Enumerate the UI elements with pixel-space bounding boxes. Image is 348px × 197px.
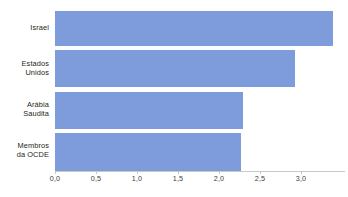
x-tick-label: 2,0 bbox=[204, 174, 234, 184]
bar-membros-da-ocde bbox=[55, 133, 241, 171]
bar-israel bbox=[55, 11, 333, 46]
x-tick-label: 1,0 bbox=[122, 174, 152, 184]
x-tick-label: 1,5 bbox=[163, 174, 193, 184]
bar-chart: Israel Estados Unidos Arábia Saudita Mem… bbox=[0, 0, 348, 197]
x-tick-label: 0,0 bbox=[40, 174, 70, 184]
bar-estados-unidos bbox=[55, 50, 295, 87]
x-tick-label: 2,5 bbox=[245, 174, 275, 184]
bars-container bbox=[0, 0, 348, 172]
x-tick-label: 0,5 bbox=[81, 174, 111, 184]
x-axis-tick-labels: 0,0 0,5 1,0 1,5 2,0 2,5 3,0 bbox=[0, 174, 348, 188]
x-tick-label: 3,0 bbox=[286, 174, 316, 184]
bar-arabia-saudita bbox=[55, 92, 243, 129]
